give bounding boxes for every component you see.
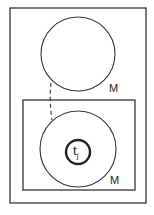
upper-circle (41, 17, 115, 91)
lower-circle (40, 111, 116, 187)
core-label: tj (73, 143, 79, 160)
outer-frame (10, 8, 146, 203)
diagram-canvas: M M tj (0, 0, 154, 215)
lower-circle-label: M (110, 174, 119, 186)
upper-circle-label: M (109, 82, 118, 94)
dashed-connector (50, 83, 52, 120)
